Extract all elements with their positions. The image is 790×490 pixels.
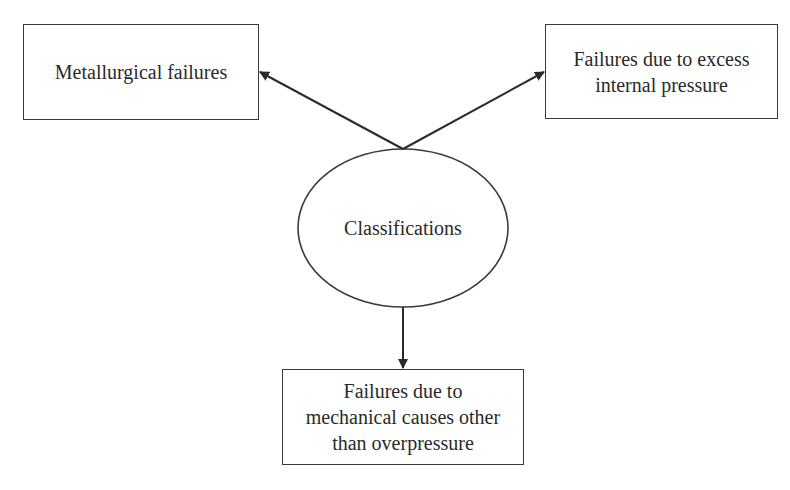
node-text-line: Failures due to excess — [573, 46, 749, 72]
node-text-line: Metallurgical failures — [55, 59, 227, 85]
node-text-line: Failures due to — [306, 378, 500, 404]
classifications-label: Classifications — [298, 149, 508, 307]
excess-internal-pressure-box: Failures due to excess internal pressure — [545, 24, 778, 119]
node-text-line: internal pressure — [573, 72, 749, 98]
node-text-line: mechanical causes other — [306, 404, 500, 430]
metallurgical-failures-box: Metallurgical failures — [23, 24, 259, 120]
arrow-to-internal-pressure — [403, 72, 544, 149]
arrow-to-metallurgical — [260, 72, 403, 149]
mechanical-causes-box: Failures due to mechanical causes other … — [282, 369, 524, 465]
node-text-line: than overpressure — [306, 430, 500, 456]
